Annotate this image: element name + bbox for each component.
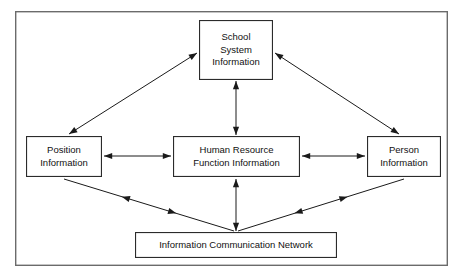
diagram-canvas: SchoolSystemInformationPositionInformati… (0, 0, 463, 278)
node-box-information-communication-network[interactable] (136, 233, 337, 258)
diagram-svg (0, 0, 463, 278)
node-box-person-information[interactable] (368, 137, 441, 177)
node-box-human-resource-function-information[interactable] (174, 137, 300, 177)
node-box-position-information[interactable] (27, 137, 102, 177)
node-box-school-system-information[interactable] (200, 21, 273, 80)
